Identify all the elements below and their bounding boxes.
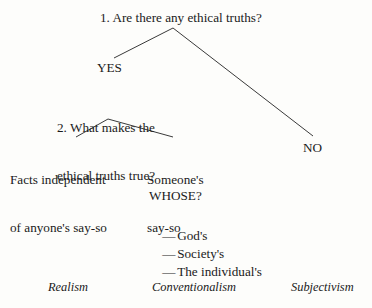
yes-branch-label: YES — [97, 60, 122, 76]
whose-question-label: WHOSE? — [149, 188, 202, 204]
whose-option-label: The individual's — [177, 264, 262, 279]
leaf-facts-line-1: Facts independent — [10, 172, 107, 188]
leaf-facts-line-2: of anyone's say-so — [10, 220, 107, 236]
ethical-truths-decision-tree: 1. Are there any ethical truths? YES 2. … — [0, 0, 372, 308]
question-1-label: 1. Are there any ethical truths? — [100, 10, 262, 26]
theory-label-conventionalism: Conventionalism — [152, 280, 236, 295]
no-branch-label: NO — [303, 140, 322, 156]
leaf-facts-independent: Facts independent of anyone's say-so — [10, 140, 107, 268]
theory-label-subjectivism: Subjectivism — [291, 280, 354, 295]
em-dash-icon: — — [162, 264, 177, 280]
theory-label-realism: Realism — [48, 280, 88, 295]
branch-line-q1-to-yes — [114, 28, 173, 58]
branch-line-q1-to-no — [173, 28, 313, 136]
leaf-someone-line-1: Someone's — [147, 172, 204, 188]
question-2-line-1: 2. What makes the — [57, 120, 155, 136]
